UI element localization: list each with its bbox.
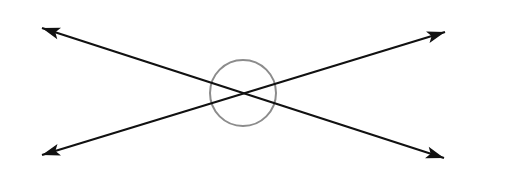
line-b-double-arrow — [42, 32, 445, 155]
intersecting-lines-diagram — [0, 0, 516, 188]
